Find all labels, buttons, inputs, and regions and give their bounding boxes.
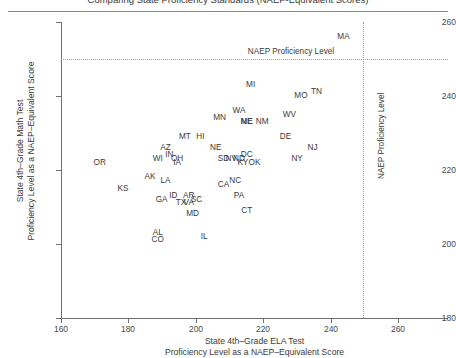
point-label-ne: NE: [241, 118, 252, 126]
point-label-ny: NY: [291, 155, 302, 163]
point-label-va: VA: [184, 199, 194, 207]
x-axis-label: State 4th–Grade ELA Test Proficiency Lev…: [61, 336, 448, 358]
point-label-hi: HI: [196, 133, 204, 141]
chart-figure: Comparing State Proficiency Standards (N…: [0, 0, 456, 358]
point-label-wi: WI: [153, 155, 163, 163]
x-tick-220: [263, 318, 264, 323]
naep-proficiency-vline: [363, 22, 364, 318]
point-label-nm: NM: [256, 118, 269, 126]
y-axis-label-line1: State 4th–Grade Math Test: [15, 41, 26, 261]
y-axis-label-line2: Proficiency Level as a NAEP–Equivalent S…: [26, 41, 37, 261]
point-label-ma: MA: [337, 33, 349, 41]
x-tick-160: [61, 318, 62, 323]
point-label-or: OR: [94, 158, 106, 166]
point-label-ky: KY: [237, 158, 248, 166]
point-label-la: LA: [160, 177, 170, 185]
x-ticklabel-220: 220: [243, 324, 283, 334]
y-axis-label: State 4th–Grade Math Test Proficiency Le…: [15, 41, 37, 261]
point-label-ak: AK: [145, 173, 156, 181]
x-ticklabel-260: 260: [378, 324, 418, 334]
point-label-nc: NC: [229, 177, 241, 185]
x-axis-label-line1: State 4th–Grade ELA Test: [61, 336, 448, 347]
x-ticklabel-160: 160: [41, 324, 81, 334]
point-label-pa: PA: [234, 192, 244, 200]
x-ticklabel-240: 240: [311, 324, 351, 334]
x-axis-label-line2: Proficiency Level as a NAEP–Equivalent S…: [61, 347, 448, 358]
plot-area: NAEP Proficiency Level NAEP Proficiency …: [61, 22, 448, 318]
x-tick-200: [196, 318, 197, 323]
x-ticklabel-200: 200: [176, 324, 216, 334]
title-rule: [8, 11, 448, 12]
point-label-ks: KS: [117, 184, 128, 192]
chart-title: Comparing State Proficiency Standards (N…: [0, 0, 456, 8]
point-label-ok: OK: [249, 158, 261, 166]
point-label-wv: WV: [283, 110, 296, 118]
naep-proficiency-vline-label: NAEP Proficiency Level: [377, 93, 386, 179]
point-label-wa: WA: [233, 107, 246, 115]
point-label-il: IL: [201, 232, 208, 240]
point-label-mo: MO: [294, 92, 307, 100]
point-label-mt: MT: [179, 133, 191, 141]
naep-proficiency-hline-label: NAEP Proficiency Level: [248, 47, 334, 56]
point-label-ca: CA: [218, 181, 229, 189]
point-label-tn: TN: [311, 88, 322, 96]
x-axis-line: [61, 318, 448, 319]
x-tick-180: [128, 318, 129, 323]
point-label-mn: MN: [213, 114, 226, 122]
x-tick-240: [331, 318, 332, 323]
x-ticklabel-180: 180: [108, 324, 148, 334]
point-label-ne2: NE: [210, 144, 221, 152]
point-label-ga: GA: [156, 195, 168, 203]
point-label-mi: MI: [246, 81, 255, 89]
naep-proficiency-hline: [61, 59, 448, 60]
point-label-ia: IA: [173, 158, 181, 166]
point-label-nj: NJ: [308, 144, 318, 152]
point-label-co: CO: [152, 236, 164, 244]
point-label-de: DE: [280, 133, 291, 141]
point-label-md: MD: [186, 210, 199, 218]
x-tick-260: [398, 318, 399, 323]
point-label-ct: CT: [241, 207, 252, 215]
